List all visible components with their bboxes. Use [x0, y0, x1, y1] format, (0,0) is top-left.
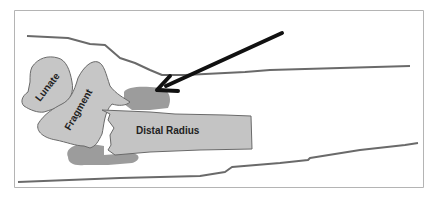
annotation-arrow: [166, 33, 282, 86]
distal-radius-label: Distal Radius: [136, 125, 200, 136]
wrist-fracture-diagram: Lunate Fragment Distal Radius: [0, 0, 440, 199]
